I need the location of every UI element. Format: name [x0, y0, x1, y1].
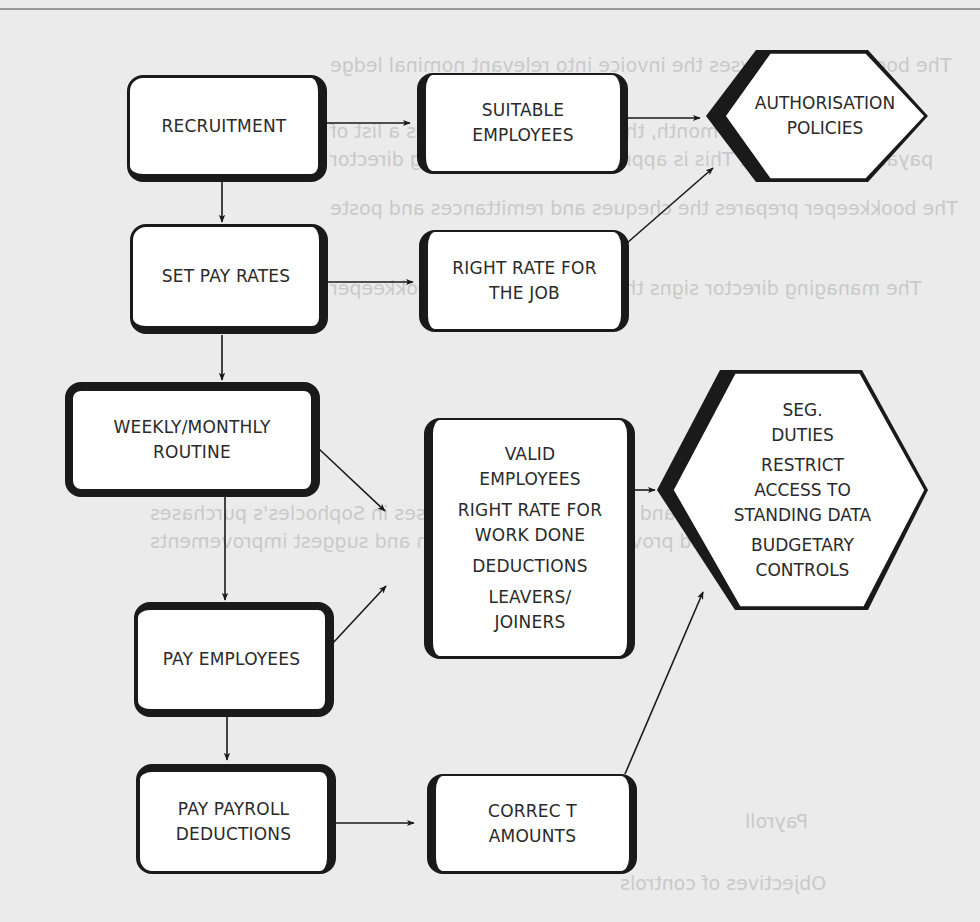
step-weekly-monthly-routine: WEEKLY/MONTHLY ROUTINE — [65, 382, 320, 497]
arrow-correct-amounts-to-seg-duties — [625, 592, 703, 774]
step-label-line: DEDUCTIONS — [176, 822, 292, 847]
control-label-line: AUTHORISATION — [755, 91, 895, 116]
objective-label-line: RIGHT RATE FOR — [458, 498, 602, 523]
control-label-line: ACCESS TO — [754, 478, 851, 503]
objective-right-rate-for-job: RIGHT RATE FOR THE JOB — [419, 230, 629, 332]
arrow-right-rate-to-authorisation — [627, 168, 713, 243]
objective-correct-amounts: CORREC T AMOUNTS — [427, 774, 637, 874]
objective-valid-employees: VALID EMPLOYEES RIGHT RATE FOR WORK DONE… — [424, 418, 635, 659]
step-label-line: ROUTINE — [153, 440, 231, 465]
step-label: RECRUITMENT — [162, 114, 287, 139]
step-label: SET PAY RATES — [162, 264, 291, 289]
control-label-line: SEG. — [782, 398, 822, 423]
control-label-line: RESTRICT — [761, 453, 844, 478]
control-label-line: DUTIES — [771, 423, 833, 448]
objective-label-line: THE JOB — [489, 281, 560, 306]
objective-suitable-employees: SUITABLE EMPLOYEES — [417, 73, 628, 174]
step-label-line: WEEKLY/MONTHLY — [113, 415, 270, 440]
control-seg-duties: SEG. DUTIES RESTRICT ACCESS TO STANDING … — [690, 375, 915, 605]
objective-label-line: VALID — [505, 442, 556, 467]
objective-label-line: LEAVERS/ — [488, 585, 571, 610]
objective-label-line: EMPLOYEES — [472, 123, 573, 148]
step-label: PAY EMPLOYEES — [163, 647, 301, 672]
control-label-line: CONTROLS — [756, 558, 850, 583]
arrow-weekly-routine-to-valid-employees — [318, 448, 385, 511]
objective-label-line: SUITABLE — [482, 98, 564, 123]
objective-label-line: RIGHT RATE FOR — [452, 256, 596, 281]
objective-label-line: AMOUNTS — [489, 824, 576, 849]
control-label-line: BUDGETARY — [751, 533, 854, 558]
step-pay-employees: PAY EMPLOYEES — [134, 602, 334, 717]
step-set-pay-rates: SET PAY RATES — [130, 224, 328, 334]
arrow-pay-employees-to-valid-employees — [332, 586, 386, 644]
control-label-line: STANDING DATA — [734, 503, 871, 528]
objective-label-line: EMPLOYEES — [479, 467, 580, 492]
control-authorisation-policies: AUTHORISATION POLICIES — [730, 53, 920, 179]
objective-label-line: DEDUCTIONS — [472, 554, 588, 579]
step-label-line: PAY PAYROLL — [178, 797, 289, 822]
objective-label-line: CORREC T — [488, 799, 577, 824]
step-pay-payroll-deductions: PAY PAYROLL DEDUCTIONS — [136, 764, 336, 874]
step-recruitment: RECRUITMENT — [127, 75, 327, 182]
objective-label-line: JOINERS — [495, 610, 566, 635]
objective-label-line: WORK DONE — [475, 523, 585, 548]
control-label-line: POLICIES — [787, 116, 864, 141]
